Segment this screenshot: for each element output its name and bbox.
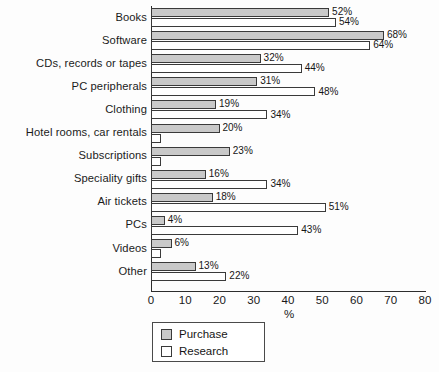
bar-row: Speciality gifts16%34% [0,168,439,191]
bar-value-research: 64% [373,40,393,50]
bar-value-research: 34% [270,110,290,120]
bar-purchase [151,100,216,109]
legend-swatch-purchase [161,329,172,340]
bar-row: CDs, records or tapes32%44% [0,53,439,76]
bar-row: Air tickets18%51% [0,191,439,214]
bar-purchase [151,170,206,179]
category-label: Software [0,34,147,46]
bar-row: Videos6% [0,238,439,261]
legend-swatch-research [161,346,172,357]
bar-row: PC peripherals31%48% [0,76,439,99]
bar-research [151,180,267,189]
x-axis-title: % [274,308,304,320]
bar-value-research: 48% [318,87,338,97]
x-tick-label: 80 [412,294,438,306]
legend-label-purchase: Purchase [179,328,228,340]
bar-purchase [151,147,230,156]
bar-row: Hotel rooms, car rentals20% [0,122,439,145]
bar-value-research: 22% [229,271,249,281]
bar-value-purchase: 23% [233,146,253,156]
x-tick-label: 30 [241,294,267,306]
bar-purchase [151,216,165,225]
category-label: Videos [0,242,147,254]
bar-purchase [151,193,213,202]
bar-research [151,110,267,119]
category-label: Subscriptions [0,149,147,161]
legend-label-research: Research [179,345,228,357]
bar-research [151,203,326,212]
bar-research [151,18,336,27]
chart-legend: Purchase Research [152,322,265,362]
bar-research [151,87,315,96]
bar-purchase [151,239,172,248]
category-label: PCs [0,218,147,230]
bar-purchase [151,262,196,271]
category-label: Speciality gifts [0,172,147,184]
category-label: CDs, records or tapes [0,57,147,69]
bar-research [151,157,161,166]
x-tick-label: 60 [344,294,370,306]
bar-value-purchase: 16% [209,169,229,179]
bar-research [151,249,161,258]
bar-value-purchase: 31% [260,76,280,86]
bar-chart-figure: Books52%54%Software68%64%CDs, records or… [0,0,439,372]
x-tick-label: 50 [309,294,335,306]
bar-purchase [151,8,329,17]
category-label: Air tickets [0,195,147,207]
x-tick-label: 70 [378,294,404,306]
category-label: Other [0,265,147,277]
bar-value-research: 54% [339,17,359,27]
bar-value-purchase: 19% [219,99,239,109]
legend-item-purchase: Purchase [161,326,228,342]
bar-row: Software68%64% [0,30,439,53]
bar-value-purchase: 20% [223,123,243,133]
category-label: PC peripherals [0,80,147,92]
bar-purchase [151,31,384,40]
x-tick-label: 20 [207,294,233,306]
bar-row: Clothing19%34% [0,99,439,122]
bar-value-research: 34% [270,179,290,189]
bar-research [151,41,370,50]
bar-value-purchase: 6% [175,238,189,248]
bar-purchase [151,77,257,86]
category-label: Clothing [0,103,147,115]
bar-research [151,64,302,73]
bar-research [151,272,226,281]
bar-row: PCs4%43% [0,214,439,237]
category-label: Books [0,11,147,23]
bar-value-research: 51% [329,202,349,212]
x-tick-label: 40 [275,294,301,306]
x-tick-label: 10 [172,294,198,306]
bar-row: Subscriptions23% [0,145,439,168]
x-axis-line [151,291,426,292]
bar-value-purchase: 13% [199,261,219,271]
bar-value-research: 44% [305,63,325,73]
bar-research [151,134,161,143]
bar-research [151,226,298,235]
bar-value-research: 43% [301,225,321,235]
bar-value-purchase: 32% [264,53,284,63]
bar-purchase [151,124,220,133]
bar-purchase [151,54,261,63]
category-label: Hotel rooms, car rentals [0,126,147,138]
bar-row: Other13%22% [0,261,439,284]
x-tick-label: 0 [138,294,164,306]
bar-value-purchase: 18% [216,192,236,202]
legend-item-research: Research [161,343,228,359]
bar-value-purchase: 4% [168,215,182,225]
bar-row: Books52%54% [0,7,439,30]
